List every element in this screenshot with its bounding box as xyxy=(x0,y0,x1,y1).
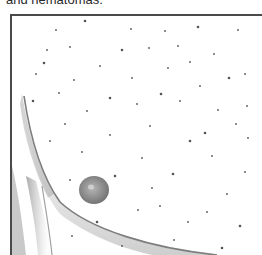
petechia-dot xyxy=(121,49,124,52)
petechia-dot xyxy=(204,132,207,135)
petechia-dot xyxy=(244,73,246,75)
petechia-dot xyxy=(137,209,139,211)
petechia-dot xyxy=(121,245,123,247)
breast-illustration-figure xyxy=(10,14,262,255)
petechia-dot xyxy=(179,100,181,102)
petechia-dot xyxy=(226,193,228,195)
petechia-dot xyxy=(141,157,143,159)
breast-contour-line xyxy=(24,96,217,255)
petechia-dot xyxy=(160,93,163,96)
petechia-dot xyxy=(167,67,169,69)
petechia-dot xyxy=(49,140,51,142)
petechia-dot xyxy=(228,77,231,80)
petechia-dot xyxy=(149,125,151,127)
petechia-dot xyxy=(189,140,192,143)
petechia-dot xyxy=(244,171,246,173)
petechia-dot xyxy=(173,239,175,241)
petechia-dot xyxy=(46,49,48,51)
petechia-dot xyxy=(177,45,179,47)
petechia-dot xyxy=(246,105,248,107)
petechia-dot xyxy=(109,97,112,100)
nipple-highlight xyxy=(88,185,94,190)
petechia-dot xyxy=(197,26,200,29)
petechia-dot xyxy=(130,28,132,30)
petechia-dot xyxy=(189,61,191,63)
petechia-dot xyxy=(247,137,249,139)
petechia-dot xyxy=(69,46,71,48)
petechia-dot xyxy=(136,103,138,105)
petechia-dot xyxy=(151,187,153,189)
petechia-dot xyxy=(172,173,175,176)
breast-shading xyxy=(22,96,212,255)
petechia-dot xyxy=(69,179,71,181)
petechia-dot xyxy=(199,85,201,87)
petechia-dot xyxy=(217,109,219,111)
petechia-dot xyxy=(187,221,189,223)
petechia-dot xyxy=(213,53,215,55)
petechia-dot xyxy=(71,235,73,237)
petechia-dot xyxy=(239,225,242,228)
illustration-canvas xyxy=(12,16,262,255)
petechia-dot xyxy=(35,73,37,75)
petechia-dot xyxy=(148,47,150,49)
petechia-dot xyxy=(64,123,66,125)
areola xyxy=(79,176,109,204)
petechia-dot xyxy=(43,62,46,65)
petechia-dot xyxy=(235,123,237,125)
petechia-dot xyxy=(237,29,239,31)
petechia-dot xyxy=(58,92,60,94)
petechia-dot xyxy=(73,79,75,81)
petechia-dot xyxy=(84,20,87,23)
petechia-dot xyxy=(55,29,57,31)
petechia-dot xyxy=(96,221,99,224)
petechia-dot xyxy=(206,211,208,213)
petechia-dot xyxy=(159,205,161,207)
petechia-dot xyxy=(109,134,111,136)
petechia-dot xyxy=(86,110,88,112)
figure-caption: and hematomas. xyxy=(6,0,103,8)
petechia-dot xyxy=(164,30,166,32)
petechia-dot xyxy=(81,151,83,153)
petechia-dot xyxy=(131,77,133,79)
petechia-dot xyxy=(211,155,213,157)
petechia-dot xyxy=(114,175,117,178)
petechia-dot xyxy=(99,65,101,67)
torso-side-shading xyxy=(12,166,26,255)
petechia-dot xyxy=(32,100,35,103)
petechia-dot xyxy=(221,247,224,250)
